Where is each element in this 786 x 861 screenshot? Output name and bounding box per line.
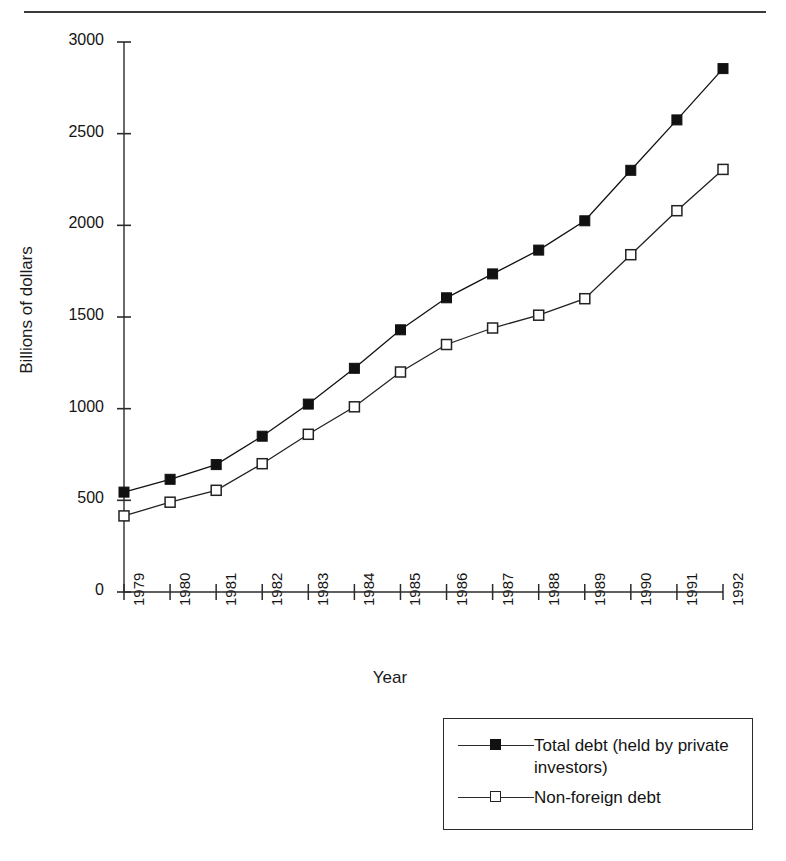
axes: [117, 42, 723, 600]
chart-page: Billions of dollars 05001000150020002500…: [0, 0, 786, 861]
open-square-icon: [490, 791, 501, 802]
data-series: [119, 64, 728, 521]
line-chart: Billions of dollars 05001000150020002500…: [0, 0, 786, 700]
chart-legend: Total debt (held by private investors) N…: [443, 718, 753, 830]
legend-key-non-foreign-debt: [458, 787, 534, 809]
legend-item-total-debt: Total debt (held by private investors): [444, 735, 752, 779]
plot-canvas: [0, 0, 786, 700]
filled-square-icon: [490, 739, 501, 750]
legend-label-non-foreign-debt: Non-foreign debt: [534, 787, 661, 809]
legend-label-total-debt: Total debt (held by private investors): [534, 735, 740, 779]
legend-key-total-debt: [458, 735, 534, 757]
legend-item-non-foreign-debt: Non-foreign debt: [444, 787, 752, 809]
x-axis-title: Year: [300, 668, 480, 688]
